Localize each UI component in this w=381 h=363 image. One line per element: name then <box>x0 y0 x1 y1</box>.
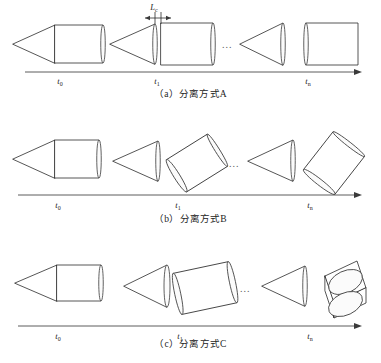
ellipsis-c: ... <box>240 283 251 294</box>
ellipsis-b: ... <box>229 158 240 169</box>
stage-tn-assembly-c <box>262 261 366 322</box>
vertical-cylinder-tn-c <box>325 261 367 322</box>
stage-tn-assembly-b <box>248 130 366 197</box>
ellipsis-a: ... <box>222 39 233 50</box>
stage-t1-assembly-b <box>113 133 229 193</box>
tilted-cylinder-t1-c <box>170 261 239 315</box>
stage-t1-assembly-c <box>124 261 240 315</box>
panel-a-caption: （a）分离方式A <box>0 86 381 100</box>
stage-t0-assembly-c <box>15 265 103 301</box>
stage-t0-assembly-a <box>13 25 105 63</box>
stage-tn-assembly-a <box>240 23 358 65</box>
axis-tick-t0-b: t0 <box>55 200 60 211</box>
separation-modes-figure: Lc ... t0 t1 tn （a）分离方式A <box>0 0 381 363</box>
panel-c-caption: （c）分离方式C <box>0 336 381 350</box>
time-axis-b <box>18 192 362 198</box>
axis-tick-t1-b: t1 <box>175 200 180 211</box>
dimension-label-lc: Lc <box>149 2 158 13</box>
dimension-annotation-lc: Lc <box>145 2 171 24</box>
stage-t0-assembly-b <box>13 140 101 178</box>
tilted-cylinder-t1-b <box>164 133 229 193</box>
stage-t1-assembly-a <box>110 23 215 65</box>
tilted-cylinder-tn-b <box>302 130 366 197</box>
panel-b-caption: （b）分离方式B <box>0 211 381 225</box>
time-axis-a <box>25 69 362 75</box>
time-axis-c <box>18 323 362 329</box>
axis-tick-tn-b: tn <box>307 200 312 211</box>
